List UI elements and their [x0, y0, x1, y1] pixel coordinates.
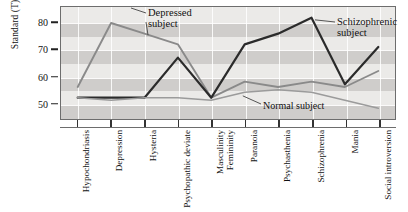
y-axis-tick-marks — [51, 0, 60, 122]
x-axis-tick-mark — [211, 120, 213, 127]
x-axis-label-mania: Mania — [350, 130, 360, 212]
x-axis-tick-mark — [178, 120, 180, 127]
series-line-normal-subject — [78, 90, 379, 109]
x-axis-tick-mark — [346, 120, 348, 127]
x-axis-label-hypochondriasis: Hypochondriasis — [81, 130, 91, 212]
y-axis-title-wrap: Standard (T) score — [0, 0, 16, 120]
y-axis-tick-label: 70 — [22, 44, 48, 55]
y-axis-tick-label: 80 — [22, 17, 48, 28]
x-axis-label-masculinity-femininity: Masculinity Femininity — [215, 130, 235, 212]
x-axis-tick-mark — [110, 120, 112, 127]
x-axis-label-hysteria: Hysteria — [148, 130, 158, 212]
y-axis-tick-label: 60 — [22, 71, 48, 82]
y-axis-tick-label: 50 — [22, 98, 48, 109]
y-axis-tick-mark — [51, 76, 58, 78]
x-axis-label-schizophrenia: Schizophrenia — [316, 130, 326, 212]
y-axis-tick-labels: 80706050 — [18, 0, 48, 122]
y-axis-tick-mark — [51, 103, 58, 105]
x-axis-tick-mark — [379, 120, 381, 127]
x-axis-tick-mark — [77, 120, 79, 127]
y-axis-tick-mark — [51, 49, 58, 51]
x-axis-label-psychasthenia: Psychasthenia — [282, 130, 292, 212]
x-axis-tick-mark — [312, 120, 314, 127]
x-axis-tick-mark — [245, 120, 247, 127]
annotation-schizophrenic-subject: Schizophrenic subject — [337, 16, 397, 38]
mmpi-profile-chart: Standard (T) score 80706050 Hypochondria… — [0, 0, 408, 212]
annotation-normal-subject: Normal subject — [263, 100, 324, 111]
x-axis-baseline — [60, 127, 396, 128]
x-axis-tick-labels: HypochondriasisDepressionHysteriaPsychop… — [60, 130, 396, 212]
annotation-depressed-subject: Depressed subject — [148, 7, 192, 29]
x-axis-label-paranoia: Paranoia — [249, 130, 259, 212]
y-axis-tick-mark — [51, 22, 58, 24]
x-axis-label-depression: Depression — [114, 130, 124, 212]
x-axis-tick-mark — [144, 120, 146, 127]
x-axis-label-social-introversion: Social introversion — [383, 130, 393, 212]
x-axis-tick-mark — [278, 120, 280, 127]
x-axis-label-psychopathic-deviate: Psychopathic deviate — [182, 130, 192, 212]
